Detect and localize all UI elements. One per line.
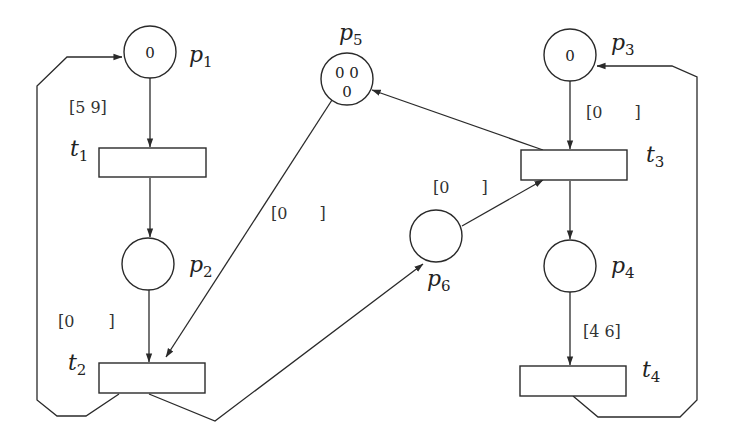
place-p3-token: 0 — [565, 47, 575, 65]
place-p2: p2 — [122, 238, 213, 290]
transition-t3: t3 [0] — [521, 103, 664, 180]
transition-t2: t2 [0] — [58, 312, 205, 393]
place-p2-label: p2 — [189, 252, 213, 281]
place-p3: 0 p3 — [544, 29, 635, 81]
place-p6-label: p6 — [427, 266, 451, 295]
transition-t4-bar — [520, 366, 626, 396]
transition-t4: t4 [46] — [520, 322, 660, 396]
transition-t3-bar — [521, 150, 627, 180]
transition-t1-bar — [99, 148, 206, 177]
transition-t4-label: t4 — [642, 357, 660, 386]
place-p5-tokens-row2: 0 — [342, 83, 352, 101]
place-p3-label: p3 — [611, 30, 635, 59]
arc-p5-t2-interval: [0] — [271, 204, 326, 223]
transition-t2-label: t2 — [68, 350, 86, 379]
transition-t2-interval: [0] — [58, 312, 115, 331]
transition-t3-interval: [0] — [586, 103, 641, 122]
place-p5-label: p5 — [339, 20, 363, 49]
transition-t1: t1 [59] — [69, 98, 206, 177]
transition-t2-bar — [99, 363, 205, 393]
place-p4-circle — [544, 240, 596, 292]
place-p6: p6 — [410, 210, 462, 295]
place-p2-circle — [122, 238, 174, 290]
transition-t1-interval: [59] — [69, 98, 107, 117]
place-p4-label: p4 — [611, 253, 635, 282]
place-p1: 0 p1 — [124, 26, 213, 78]
transition-t1-label: t1 — [70, 136, 88, 165]
place-p5: 0 0 0 p5 — [321, 20, 373, 105]
transition-t3-label: t3 — [646, 142, 664, 171]
arc-p6-t3 — [462, 180, 543, 226]
arc-t3-p5 — [372, 90, 543, 150]
place-p1-token: 0 — [145, 44, 155, 62]
place-p1-label: p1 — [189, 42, 213, 71]
transition-t4-interval: [46] — [583, 322, 621, 341]
arc-t2-p6 — [149, 264, 423, 421]
place-p5-tokens-row1: 0 0 — [335, 64, 359, 82]
place-p4: p4 — [544, 240, 635, 292]
petri-net-diagram: 0 p1 p2 0 0 0 p5 p6 0 p3 p4 t1 [59] t2 [… — [0, 0, 735, 446]
arc-p6-t3-interval: [0] — [433, 178, 488, 197]
arc-p5-t2 — [166, 100, 332, 357]
place-p6-circle — [410, 210, 462, 262]
